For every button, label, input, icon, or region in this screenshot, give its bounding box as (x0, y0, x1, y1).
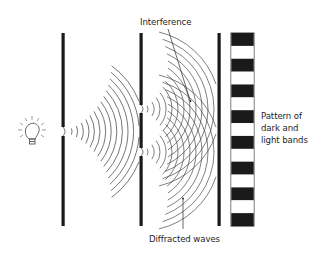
primary-wavefronts (71, 66, 139, 198)
band-light (231, 46, 253, 59)
band-light (231, 149, 253, 162)
band-dark (231, 136, 253, 149)
pattern-label-line1: Pattern of (261, 111, 302, 123)
pattern-label-line3: light bands (261, 135, 308, 147)
single-slit-barrier (62, 33, 66, 226)
screen-barrier (218, 33, 221, 226)
diffracted-waves-label: Diffracted waves (149, 234, 220, 246)
band-light (231, 200, 253, 213)
band-dark (231, 110, 253, 123)
band-pattern (231, 33, 254, 226)
band-light (231, 123, 253, 136)
light-rays (18, 116, 46, 137)
band-dark (231, 59, 253, 72)
double-slit-barrier (140, 33, 144, 226)
band-light (231, 72, 253, 85)
band-dark (231, 84, 253, 97)
band-dark (231, 213, 253, 226)
band-dark (231, 187, 253, 200)
band-light (231, 97, 253, 110)
band-light (231, 175, 253, 188)
diffracted-waves-pointer (182, 198, 184, 229)
interference-wavefronts (147, 32, 216, 229)
light-bulb-icon (18, 116, 46, 144)
pattern-label-line2: dark and (261, 123, 298, 135)
double-slit-diagram: Interference Diffracted waves Pattern of… (0, 0, 325, 257)
interference-label: Interference (140, 17, 191, 29)
band-dark (231, 33, 253, 46)
band-dark (231, 162, 253, 175)
